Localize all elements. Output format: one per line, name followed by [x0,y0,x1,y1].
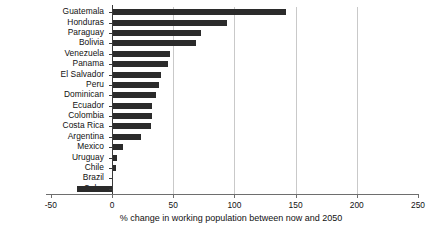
bar [112,82,159,88]
category-label: Uruguay [0,153,104,162]
bar [112,51,170,57]
gridline-100 [234,7,235,194]
x-axis-tick-label: 200 [337,200,377,210]
bar [112,72,161,78]
category-label: Ecuador [0,101,104,110]
bar [112,113,152,119]
bar [112,9,286,15]
gridline-150 [296,7,297,194]
x-axis-tick-label: 0 [92,200,132,210]
bar [112,123,151,129]
category-label: Panama [0,59,104,68]
x-axis-tick [234,194,235,198]
category-label: Venezuela [0,49,104,58]
plot-area [112,7,418,194]
category-label: Mexico [0,142,104,151]
bar-chart: GuatemalaHondurasParaguayBoliviaVenezuel… [0,0,432,230]
category-label: El Salvador [0,70,104,79]
category-label: Colombia [0,111,104,120]
bar [112,103,152,109]
x-axis-tick [112,194,113,198]
x-axis-tick-label: -50 [31,200,71,210]
category-label: Paraguay [0,28,104,37]
x-axis-tick-label: 250 [398,200,432,210]
category-label: Honduras [0,18,104,27]
x-axis-line [46,194,418,195]
category-label: Peru [0,80,104,89]
category-label: Chile [0,163,104,172]
x-axis-tick [51,194,52,198]
x-axis-tick-label: 50 [153,200,193,210]
bar [112,40,196,46]
category-label: Costa Rica [0,121,104,130]
x-axis-tick [357,194,358,198]
x-axis-tick [173,194,174,198]
x-axis-tick-label: 150 [276,200,316,210]
bar [112,61,168,67]
x-axis-tick [296,194,297,198]
gridline-200 [357,7,358,194]
category-label: Guatemala [0,7,104,16]
category-label: Bolivia [0,38,104,47]
category-label: Brazil [0,173,104,182]
x-axis-title: % change in working population between n… [0,212,432,224]
x-axis-tick [418,194,419,198]
y-axis-line [112,5,113,195]
category-label: Argentina [0,132,104,141]
bar [112,92,156,98]
category-label: Dominican [0,90,104,99]
bar [112,134,141,140]
x-axis-tick-label: 100 [214,200,254,210]
bar [112,30,201,36]
bar [112,144,123,150]
bar [77,186,112,192]
bar [112,20,227,26]
